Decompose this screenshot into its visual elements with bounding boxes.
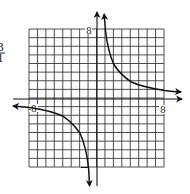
axes [13,12,182,186]
y-max-label: 8 [86,26,92,36]
fraction-fragment: 3 1 [0,41,5,65]
curve-right-branch [105,30,181,92]
graph-figure: 3 1 [0,0,190,194]
fraction-denominator: 1 [0,52,4,65]
x-max-label: 8 [160,105,166,115]
